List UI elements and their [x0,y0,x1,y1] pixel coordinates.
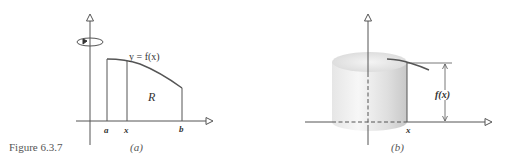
figure-canvas [0,0,507,165]
panel-b-label: (b) [391,142,404,153]
panel-a [76,14,213,145]
figure-caption: Figure 6.3.7 [9,142,62,153]
curve-f [107,59,182,88]
shell-body [332,62,407,131]
tick-label-b: b [179,125,184,134]
height-label: f(x) [434,90,451,100]
region-label: R [148,91,155,103]
x-axis-arrow-icon [206,118,213,125]
panel-a-label: (a) [130,142,143,153]
x-axis-arrow-icon [485,119,492,126]
tick-label-a: a [104,126,109,135]
rotation-arrow-icon [83,39,87,44]
tick-label-x: x [124,126,129,135]
panel-b [305,14,492,145]
y-axis-arrow-icon [87,14,94,21]
y-axis-arrow-icon [365,14,372,21]
shell-top [332,52,407,72]
curve-label: y = f(x) [129,52,160,62]
tick-label-x-b: x [406,126,411,135]
